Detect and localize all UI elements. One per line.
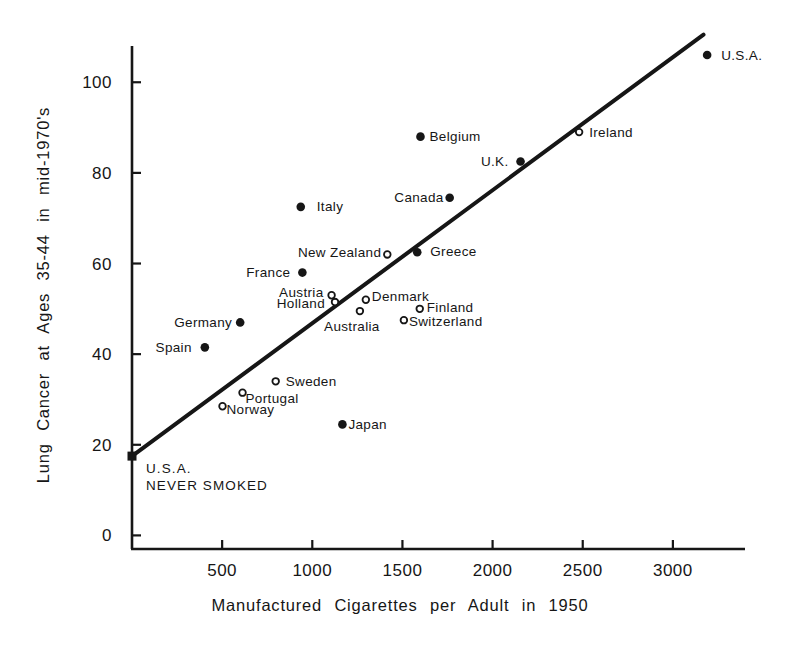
x-axis-title: Manufactured Cigarettes per Adult in 195…: [212, 596, 589, 614]
data-point-label-italy: Italy: [317, 199, 344, 214]
data-point-label-switzerland: Switzerland: [409, 314, 483, 329]
data-point-denmark: [363, 296, 370, 303]
data-point-label-ireland: Ireland: [589, 125, 633, 140]
data-point-label-germany: Germany: [174, 315, 232, 330]
scatter-plot-figure: 02040608010050010001500200025003000U.S.A…: [0, 0, 801, 652]
data-point-label-finland: Finland: [427, 300, 474, 315]
x-tick-label: 3000: [653, 561, 693, 580]
data-point-finland: [416, 306, 423, 313]
y-tick-label: 20: [92, 436, 112, 455]
never-smoked-label-line2: NEVER SMOKED: [146, 478, 268, 493]
data-point-sweden: [272, 378, 279, 385]
data-point-label-spain: Spain: [156, 340, 192, 355]
data-point-germany: [236, 318, 245, 327]
data-point-japan: [338, 420, 347, 429]
data-point-holland: [332, 299, 339, 306]
y-tick-label: 0: [102, 526, 112, 545]
data-point-label-sweden: Sweden: [286, 374, 337, 389]
data-point-australia: [357, 308, 364, 315]
data-point-greece: [413, 248, 422, 257]
never-smoked-label-line1: U.S.A.: [146, 461, 192, 476]
data-point-label-norway: Norway: [227, 402, 275, 417]
y-tick-label: 80: [92, 164, 112, 183]
y-tick-label: 60: [92, 255, 112, 274]
data-point-label-holland: Holland: [277, 296, 325, 311]
data-point-label-u-k: U.K.: [481, 154, 509, 169]
data-point-label-denmark: Denmark: [372, 289, 429, 304]
scatter-chart-svg: 02040608010050010001500200025003000U.S.A…: [0, 0, 801, 652]
data-point-new-zealand: [384, 251, 391, 258]
data-point-u-s-a: [703, 51, 712, 60]
data-point-italy: [296, 203, 305, 212]
data-point-austria: [328, 292, 335, 299]
data-point-label-japan: Japan: [348, 417, 387, 432]
data-point-ireland: [576, 129, 583, 136]
data-point-belgium: [416, 132, 425, 141]
x-tick-label: 1500: [383, 561, 423, 580]
never-smoked-marker: [128, 452, 137, 461]
data-point-label-france: France: [246, 265, 290, 280]
data-point-canada: [445, 194, 454, 203]
data-point-label-u-s-a: U.S.A.: [721, 48, 762, 63]
data-point-spain: [201, 343, 210, 352]
data-point-label-new-zealand: New Zealand: [298, 245, 381, 260]
data-point-label-greece: Greece: [430, 244, 476, 259]
y-axis-title: Lung Cancer at Ages 35-44 in mid-1970's: [34, 107, 52, 483]
trend-line: [132, 35, 704, 456]
data-point-u-k: [516, 157, 525, 166]
x-tick-label: 2500: [563, 561, 603, 580]
data-point-label-australia: Australia: [324, 319, 380, 334]
x-tick-label: 500: [207, 561, 237, 580]
chart-dynamic-layer: 02040608010050010001500200025003000U.S.A…: [82, 35, 762, 580]
y-tick-label: 40: [92, 345, 112, 364]
x-tick-label: 1000: [292, 561, 332, 580]
data-point-switzerland: [401, 317, 408, 324]
data-point-france: [298, 268, 307, 277]
data-point-norway: [219, 403, 226, 410]
x-tick-label: 2000: [473, 561, 513, 580]
y-tick-label: 100: [82, 73, 112, 92]
data-point-label-canada: Canada: [394, 190, 444, 205]
data-point-label-belgium: Belgium: [429, 129, 480, 144]
